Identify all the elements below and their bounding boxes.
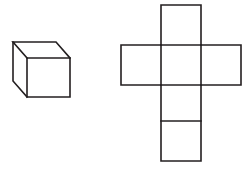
cube-net-group <box>121 5 241 161</box>
figure-canvas <box>0 0 249 170</box>
cube-net <box>0 0 249 170</box>
net-internal-lines <box>161 45 201 121</box>
net-outline <box>121 5 241 161</box>
